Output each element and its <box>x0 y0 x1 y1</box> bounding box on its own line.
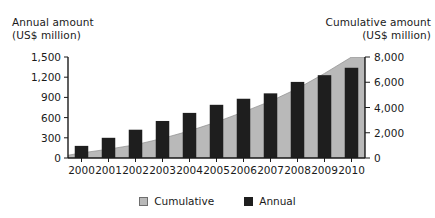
x-axis-tick-label: 2006 <box>230 164 257 176</box>
legend-item-label: Cumulative <box>154 195 214 207</box>
x-axis-tick-labels: 2000200120022003200420052006200720082009… <box>68 164 365 180</box>
annual-bar <box>75 146 89 158</box>
legend-item-label: Annual <box>259 195 296 207</box>
x-axis-tick-label: 2001 <box>95 164 122 176</box>
right-axis-tick-label: 2,000 <box>374 127 404 138</box>
annual-bar <box>156 121 170 158</box>
legend-swatch-annual <box>244 197 253 206</box>
x-axis-tick-label: 2005 <box>203 164 230 176</box>
legend-item[interactable]: Cumulative <box>139 195 214 207</box>
x-axis-tick-label: 2007 <box>257 164 284 176</box>
annual-bar <box>264 93 278 158</box>
left-axis-tick-labels: 1,5001,2009006003000 <box>0 0 61 218</box>
plot-area <box>68 57 365 158</box>
chart-legend: CumulativeAnnual <box>0 192 435 210</box>
right-axis-tick-labels: 8,0006,0004,0002,0000 <box>374 0 434 218</box>
x-axis-tick-label: 2008 <box>284 164 311 176</box>
annual-bar <box>237 99 251 158</box>
left-axis-tick-label: 900 <box>41 92 61 103</box>
left-axis-tick-label: 300 <box>41 132 61 143</box>
right-axis-tick-label: 6,000 <box>374 77 404 88</box>
left-axis-tick-label: 0 <box>54 153 61 164</box>
annual-bar <box>210 105 224 158</box>
x-axis-tick-label: 2009 <box>311 164 338 176</box>
left-axis-tick-label: 600 <box>41 112 61 123</box>
top-edge-artifact: · <box>145 0 148 4</box>
annual-bar <box>318 75 332 158</box>
annual-bar <box>291 82 305 158</box>
legend-swatch-cumulative <box>139 197 148 206</box>
right-axis-tick-label: 4,000 <box>374 102 404 113</box>
annual-bar <box>102 138 116 158</box>
right-axis-tick-label: 0 <box>374 153 381 164</box>
annual-bar <box>183 113 197 158</box>
annual-bar <box>129 130 143 158</box>
x-axis-tick-label: 2000 <box>68 164 95 176</box>
x-axis-tick-label: 2004 <box>176 164 203 176</box>
plot-svg <box>68 57 365 158</box>
legend-item[interactable]: Annual <box>244 195 296 207</box>
left-axis-tick-label: 1,200 <box>31 72 61 83</box>
x-axis-tick-label: 2010 <box>338 164 365 176</box>
chart-figure: · Annual amount (US$ million) Cumulative… <box>0 0 435 218</box>
right-axis-tick-label: 8,000 <box>374 52 404 63</box>
left-axis-tick-label: 1,500 <box>31 52 61 63</box>
annual-bar <box>345 68 359 158</box>
x-axis-tick-label: 2003 <box>149 164 176 176</box>
x-axis-tick-label: 2002 <box>122 164 149 176</box>
